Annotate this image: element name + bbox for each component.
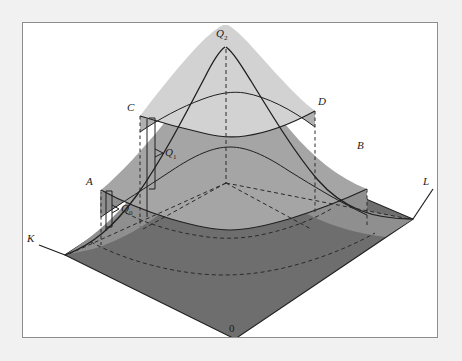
label-point-B: B bbox=[357, 140, 364, 151]
label-origin: 0 bbox=[229, 323, 235, 334]
figure-root: Q2 C D A B Q1 Q0 K L 0 bbox=[0, 0, 462, 361]
label-measure-Q0: Q0 bbox=[121, 203, 132, 217]
label-peak-Q2: Q2 bbox=[216, 28, 227, 42]
label-point-D: D bbox=[318, 96, 326, 107]
label-point-A: A bbox=[86, 176, 93, 187]
label-axis-L: L bbox=[423, 176, 429, 187]
band-Q1-to-peak bbox=[140, 25, 315, 137]
label-point-C: C bbox=[127, 102, 134, 113]
axis-stub-L bbox=[413, 189, 433, 219]
label-measure-Q1: Q1 bbox=[165, 147, 176, 161]
plot-frame: Q2 C D A B Q1 Q0 K L 0 bbox=[22, 22, 438, 338]
label-axis-K: K bbox=[27, 233, 34, 244]
axis-stub-K bbox=[39, 245, 65, 255]
